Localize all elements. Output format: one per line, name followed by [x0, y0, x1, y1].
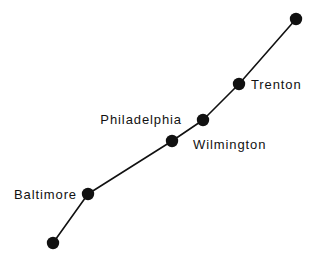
- route-node-node-4: [197, 114, 209, 126]
- route-node-node-5: [233, 78, 245, 90]
- city-label-philadelphia: Philadelphia: [100, 113, 182, 126]
- route-node-node-3: [166, 135, 178, 147]
- city-label-wilmington: Wilmington: [193, 138, 266, 151]
- route-node-node-6: [290, 13, 302, 25]
- route-diagram: BaltimorePhiladelphiaWilmingtonTrenton: [0, 0, 320, 259]
- city-label-baltimore: Baltimore: [14, 188, 77, 201]
- diagram-background: [0, 0, 320, 259]
- route-node-node-1: [47, 237, 59, 249]
- route-node-node-2: [82, 188, 94, 200]
- city-label-trenton: Trenton: [251, 78, 302, 91]
- corridor-route-graphic: [0, 0, 320, 259]
